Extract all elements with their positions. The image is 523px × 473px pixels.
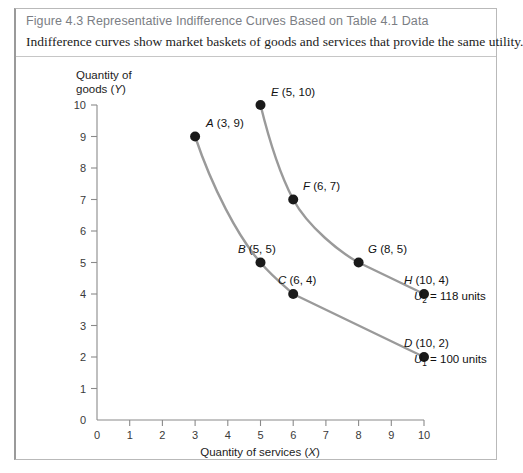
data-point-f[interactable] <box>288 195 298 205</box>
indifference-curve-u2 <box>261 105 425 294</box>
x-tick-9: 9 <box>388 429 394 441</box>
data-point-c-label: C (6, 4) <box>278 274 317 286</box>
y-tick-3: 3 <box>80 320 86 332</box>
x-tick-7: 7 <box>323 429 329 441</box>
y-tick-10: 10 <box>74 99 86 111</box>
data-point-h-label: H (10, 4) <box>404 274 449 286</box>
indifference-curve-chart: Quantity of goods (Y) 10 9 8 7 6 5 4 <box>16 57 496 459</box>
data-point-f-label: F (6, 7) <box>303 180 340 192</box>
data-point-b[interactable] <box>256 258 266 268</box>
data-point-g[interactable] <box>354 258 364 268</box>
data-point-a[interactable] <box>190 132 200 142</box>
x-axis-ticks: 0 1 2 3 4 5 6 7 8 9 10 <box>94 420 430 441</box>
data-point-d-label: D (10, 2) <box>404 337 449 349</box>
chart-svg: Quantity of goods (Y) 10 9 8 7 6 5 4 <box>16 57 497 459</box>
data-point-c[interactable] <box>288 289 298 299</box>
y-tick-1: 1 <box>80 383 86 395</box>
y-tick-5: 5 <box>80 257 86 269</box>
data-point-a-label: A (3, 9) <box>205 117 244 129</box>
x-tick-3: 3 <box>192 429 198 441</box>
y-tick-0: 0 <box>80 414 86 426</box>
data-point-e[interactable] <box>256 100 266 110</box>
x-tick-5: 5 <box>257 429 263 441</box>
data-point-g-label: G (8, 5) <box>368 243 407 255</box>
x-tick-4: 4 <box>225 429 231 441</box>
figure-title: Figure 4.3 Representative Indifference C… <box>26 14 429 28</box>
data-point-e-label: E (5, 10) <box>271 86 315 98</box>
figure-header: Figure 4.3 Representative Indifference C… <box>16 9 496 57</box>
y-axis-title-line2: goods (Y) <box>76 83 126 95</box>
y-tick-7: 7 <box>80 194 86 206</box>
y-tick-8: 8 <box>80 162 86 174</box>
x-tick-0: 0 <box>94 429 100 441</box>
y-axis-ticks: 10 9 8 7 6 5 4 3 2 1 0 <box>74 99 97 426</box>
y-tick-9: 9 <box>80 131 86 143</box>
x-tick-6: 6 <box>290 429 296 441</box>
y-tick-4: 4 <box>80 288 86 300</box>
y-axis-title-line1: Quantity of <box>76 69 132 81</box>
y-tick-2: 2 <box>80 351 86 363</box>
figure-frame: Figure 4.3 Representative Indifference C… <box>14 8 497 460</box>
x-tick-10: 10 <box>418 429 430 441</box>
x-tick-2: 2 <box>159 429 165 441</box>
y-tick-6: 6 <box>80 225 86 237</box>
data-point-b-label: B (5, 5) <box>238 243 276 255</box>
figure-caption: Indifference curves show market baskets … <box>26 34 523 50</box>
x-tick-1: 1 <box>127 429 133 441</box>
x-tick-8: 8 <box>356 429 362 441</box>
x-axis-title: Quantity of services (X) <box>200 446 320 458</box>
